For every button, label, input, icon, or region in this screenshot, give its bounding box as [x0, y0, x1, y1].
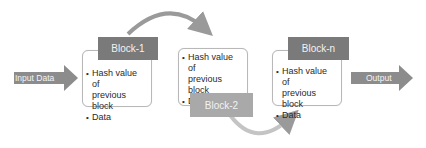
data-field: Data [276, 110, 337, 121]
output-label: Output [366, 72, 392, 84]
block-1-fields: Hash value ofprevious block Data [86, 68, 147, 123]
block-n-fields: Hash value ofprevious block Data [276, 66, 337, 121]
hash-field: Hash value ofprevious block [86, 68, 147, 112]
block-2-header: Block-2 [190, 93, 253, 117]
hash-field: Hash value ofprevious block [276, 66, 337, 110]
input-data-label: Input Data [15, 72, 54, 84]
curved-arrow-top-icon [128, 13, 204, 34]
block-1-header: Block-1 [98, 37, 158, 60]
hash-field: Hash value ofprevious block [182, 52, 243, 96]
block-n-header: Block-n [288, 37, 349, 60]
data-field: Data [86, 112, 147, 123]
